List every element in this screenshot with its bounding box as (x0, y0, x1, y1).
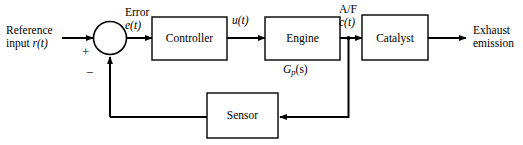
summing-minus-sign: − (86, 66, 93, 79)
controller-label: Controller (152, 32, 227, 44)
sensor-label: Sensor (207, 109, 278, 121)
catalyst-label: Catalyst (362, 32, 428, 44)
reference-input-variable: r(t) (33, 37, 48, 49)
control-signal-variable: u(t) (232, 14, 249, 27)
reference-input-prefix: input (6, 37, 33, 49)
reference-input-line1: Reference (6, 24, 53, 37)
exhaust-emission-label: Exhaust emission (473, 24, 514, 50)
af-takeoff-node (346, 36, 350, 40)
plant-transfer-arg: (s) (296, 63, 308, 75)
summing-plus-sign: + (82, 45, 89, 58)
block-diagram: Reference input r(t) + − Error e(t) Cont… (0, 0, 523, 145)
error-label: Error (125, 6, 149, 19)
reference-input-label: Reference input r(t) (6, 24, 53, 50)
engine-label: Engine (265, 32, 340, 44)
error-variable: e(t) (125, 19, 141, 32)
reference-input-line2: input r(t) (6, 37, 53, 50)
exhaust-emission-line1: Exhaust (473, 24, 514, 37)
exhaust-emission-line2: emission (473, 37, 514, 50)
af-variable: c(t) (339, 16, 355, 29)
summing-junction (94, 22, 127, 55)
af-label: A/F (339, 3, 357, 16)
diagram-wires (0, 0, 523, 145)
plant-transfer-function: Gp(s) (283, 63, 308, 79)
